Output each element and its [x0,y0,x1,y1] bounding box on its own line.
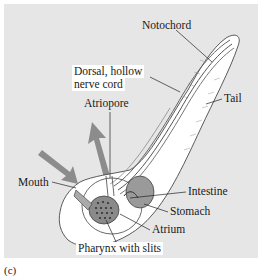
label-atrium: Atrium [152,223,185,236]
label-stomach: Stomach [170,205,210,218]
label-notochord: Notochord [142,19,191,32]
label-nerve-cord-line2: nerve cord [72,78,125,91]
lancelet-diagram: Notochord Dorsal, hollow nerve cord Tail… [0,0,262,280]
label-atriopore: Atriopore [84,97,129,110]
label-tail: Tail [224,92,242,105]
water-out-arrow-icon [88,122,110,178]
label-nerve-cord-line1: Dorsal, hollow [72,65,144,78]
label-mouth: Mouth [18,176,49,189]
panel-letter: (c) [4,264,16,276]
label-intestine: Intestine [188,185,228,198]
pharynx-organ [89,196,119,224]
lancelet-illustration [0,0,262,280]
label-pharynx: Pharynx with slits [76,242,163,255]
